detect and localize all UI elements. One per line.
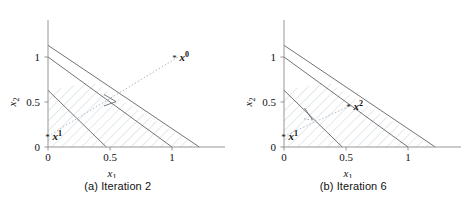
feasible-region [48,82,199,147]
svg-text:x1: x1 [342,167,352,178]
x-axis-title: x1 [107,167,117,178]
x-tick-label-1: 0.5 [103,151,117,163]
x-tick-label-2: 1 [405,151,411,163]
x-ticks [48,147,172,151]
star-marker-icon: * [281,132,286,142]
svg-text:x0: x0 [179,50,190,63]
plot-area-a: 0 0.5 1 0 0.5 1 x1 x2 [0,0,236,178]
star-marker-icon: * [45,132,50,142]
panel-b-caption: (b) Iteration 6 [236,180,471,192]
plot-area-b: 0 0.5 1 0 0.5 1 x1 x2 * [236,0,471,178]
point-x0-sup: 0 [185,50,189,59]
plot-svg-b: 0 0.5 1 0 0.5 1 x1 x2 * [236,0,471,178]
y-tick-label-1: 0.5 [262,96,276,108]
figure-container: 0 0.5 1 0 0.5 1 x1 x2 [0,0,471,209]
y-tick-label-0: 0 [270,141,276,153]
panel-b: 0 0.5 1 0 0.5 1 x1 x2 * [236,0,471,209]
x-axis-title-sub: 1 [348,173,352,178]
feasible-region [284,82,435,147]
x-tick-label-1: 0.5 [339,151,353,163]
x-tick-label-0: 0 [281,151,287,163]
star-marker-icon: * [172,53,177,63]
plot-svg-a: 0 0.5 1 0 0.5 1 x1 x2 [0,0,236,178]
y-axis-title-sub: 2 [12,98,21,102]
star-marker-icon: * [346,102,351,112]
y-axis-title: x2 [242,98,257,108]
y-tick-label-0: 0 [35,141,41,153]
x-axis-title: x1 [342,167,352,178]
panel-a-caption: (a) Iteration 2 [0,180,236,192]
point-x0: * x0 [172,50,189,63]
x-tick-label-2: 1 [169,151,175,163]
panel-a: 0 0.5 1 0 0.5 1 x1 x2 [0,0,236,209]
y-tick-label-2: 1 [35,51,41,63]
point-x1-sup: 1 [58,129,62,138]
svg-text:x2: x2 [6,98,21,108]
svg-text:x1: x1 [107,167,117,178]
svg-text:x2: x2 [242,98,257,108]
x-ticks [284,147,408,151]
y-tick-label-2: 1 [270,51,276,63]
y-tick-label-1: 0.5 [26,96,40,108]
y-axis-title-sub: 2 [248,98,257,102]
point-x2-sup: 2 [359,99,363,108]
x-tick-label-0: 0 [45,151,51,163]
y-axis-title: x2 [6,98,21,108]
point-x1-sup: 1 [294,129,298,138]
x-axis-title-sub: 1 [112,173,116,178]
